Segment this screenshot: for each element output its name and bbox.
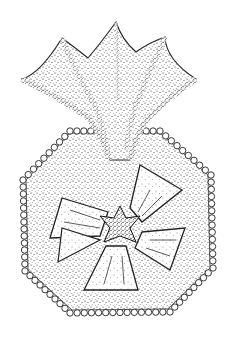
stippled-illustration xyxy=(0,0,234,341)
